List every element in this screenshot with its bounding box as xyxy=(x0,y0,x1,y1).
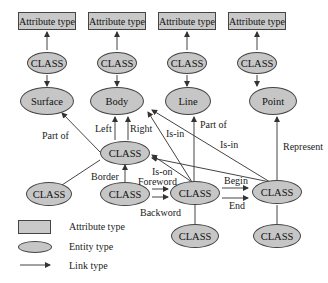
legend-label-entity-type: Entity type xyxy=(69,242,113,252)
class-node-bottom-right: CLASS xyxy=(253,224,301,248)
edge-label-is-in-right: Is-in xyxy=(220,140,238,150)
legend-ellipse-swatch xyxy=(18,241,52,253)
legend-label-link-type: Link type xyxy=(69,261,108,271)
entity-surface: Surface xyxy=(20,87,74,115)
class-node-left: CLASS xyxy=(26,182,72,206)
edge-label-right: Right xyxy=(130,124,152,134)
class-node-point: CLASS xyxy=(237,52,277,74)
entity-line: Line xyxy=(165,87,211,115)
edge-label-left: Left xyxy=(95,124,112,134)
edge-label-begin: Begin xyxy=(224,176,248,186)
class-node-surface: CLASS xyxy=(27,52,67,74)
edge-label-part-of-line: Part of xyxy=(200,120,227,130)
edge-label-backword: Backword xyxy=(140,208,181,218)
entity-body: Body xyxy=(90,87,144,115)
edge-label-end: End xyxy=(229,201,245,211)
class-node-center: CLASS xyxy=(170,181,220,205)
edge-label-is-in-body: Is-in xyxy=(166,129,184,139)
edge-label-foreword: Foreword xyxy=(138,177,177,187)
class-node-line: CLASS xyxy=(167,52,207,74)
edge-label-part-of-surface: Part of xyxy=(42,131,69,141)
attribute-type-box-surface: Attribute type xyxy=(18,12,76,30)
attribute-type-box-line: Attribute type xyxy=(158,12,216,30)
class-node-right: CLASS xyxy=(252,180,302,204)
entity-relationship-diagram: Attribute type Attribute type Attribute … xyxy=(0,0,328,283)
edge-label-represent: Represent xyxy=(283,142,323,152)
entity-point: Point xyxy=(249,87,297,115)
legend-rectangle-swatch xyxy=(18,220,51,234)
class-node-body: CLASS xyxy=(97,52,137,74)
legend-label-attribute-type: Attribute type xyxy=(69,222,125,232)
class-node-middle: CLASS xyxy=(100,141,150,165)
attribute-type-box-body: Attribute type xyxy=(88,12,146,30)
edge-label-border: Border xyxy=(91,172,119,182)
attribute-type-box-point: Attribute type xyxy=(228,12,286,30)
class-node-bottom-center: CLASS xyxy=(171,224,219,248)
